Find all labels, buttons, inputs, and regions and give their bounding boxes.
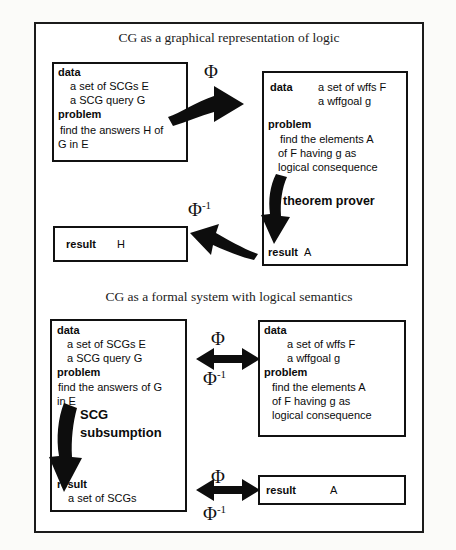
top-right-problem-line-3: logical consequence	[278, 161, 378, 174]
phi-forward-label: Φ	[204, 61, 218, 83]
phi-bidir-result-bottom-label: Φ-1	[203, 503, 226, 525]
top-right-data-line-1: a set of wffs F	[318, 81, 386, 94]
bottom-left-problem-line-2: in E	[57, 395, 76, 408]
phi-bidir-data-bottom-label: Φ-1	[203, 368, 226, 390]
bottom-left-problem-line-1: find the answers of G	[58, 381, 162, 394]
top-left-data-line-2: a SCG query G	[70, 94, 145, 107]
bottom-right-problem-label: problem	[264, 366, 307, 379]
top-left-result-value: H	[117, 238, 125, 251]
bottom-right-result-value: A	[330, 484, 337, 497]
bottom-left-result-label: result	[57, 478, 87, 491]
top-left-data-label: data	[58, 66, 81, 79]
phi-inverse-exponent: -1	[202, 199, 211, 211]
phi-bidir-result-top-label: Φ	[211, 466, 225, 488]
phi-bidir-result-base: Φ	[203, 503, 217, 524]
bottom-right-result-label: result	[266, 484, 296, 497]
section-title-bottom: CG as a formal system with logical seman…	[34, 289, 424, 305]
top-right-result-label: result	[268, 246, 298, 259]
top-left-problem-line-2: G in E	[58, 138, 89, 151]
subsumption-label: subsumption	[80, 427, 162, 440]
phi-bidir-data-top-label: Φ	[211, 328, 225, 350]
top-right-problem-line-2: of F having g as	[278, 147, 356, 160]
bottom-right-problem-line-1: find the elements A	[272, 381, 366, 394]
bottom-left-data-line-1: a set of SCGs E	[67, 338, 146, 351]
bottom-left-data-label: data	[57, 324, 80, 337]
bottom-right-problem-line-2: of F having g as	[272, 395, 350, 408]
bottom-left-data-line-2: a SCG query G	[67, 352, 142, 365]
scg-label: SCG	[80, 409, 108, 422]
theorem-prover-label: theorem prover	[283, 195, 375, 208]
phi-inverse-back-label: Φ-1	[188, 199, 211, 221]
top-right-data-label: data	[270, 81, 293, 94]
bottom-right-problem-line-3: logical consequence	[272, 409, 372, 422]
top-right-result-value: A	[304, 246, 311, 259]
top-right-problem-line-1: find the elements A	[280, 133, 374, 146]
top-left-problem-label: problem	[58, 108, 101, 121]
top-left-problem-line-1: find the answers H of	[60, 124, 163, 137]
phi-bidir-data-base: Φ	[203, 368, 217, 389]
bottom-left-problem-label: problem	[57, 366, 100, 379]
top-right-problem-label: problem	[268, 118, 311, 131]
top-left-result-label: result	[66, 238, 96, 251]
section-title-top: CG as a graphical representation of logi…	[34, 30, 424, 46]
phi-inverse-base: Φ	[188, 199, 202, 220]
phi-bidir-data-exponent: -1	[217, 368, 226, 380]
bottom-right-data-line-2: a wffgoal g	[287, 352, 340, 365]
phi-bidir-result-exponent: -1	[217, 503, 226, 515]
top-right-data-line-2: a wffgoal g	[318, 95, 371, 108]
bottom-right-data-label: data	[264, 324, 287, 337]
top-left-data-line-1: a set of SCGs E	[70, 80, 149, 93]
bottom-right-data-line-1: a set of wffs F	[287, 338, 355, 351]
bottom-left-result-value: a set of SCGs	[68, 492, 136, 505]
diagram-canvas: CG as a graphical representation of logi…	[0, 0, 456, 550]
